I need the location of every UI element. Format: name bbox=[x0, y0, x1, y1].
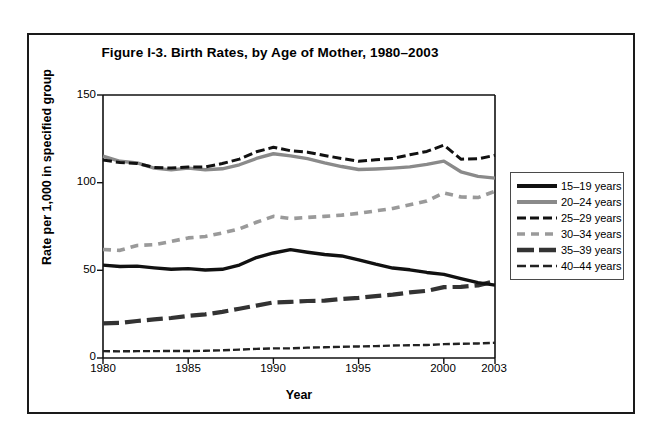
legend-label-25-29: 25–29 years bbox=[561, 212, 622, 224]
legend-item-40-44[interactable]: 40–44 years bbox=[516, 258, 618, 274]
y-tick-marks bbox=[97, 95, 103, 358]
legend-swatch-20-24 bbox=[516, 195, 558, 209]
legend-item-20-24[interactable]: 20–24 years bbox=[516, 194, 618, 210]
legend-label-30-34: 30–34 years bbox=[561, 228, 622, 240]
figure-root: Figure I-3. Birth Rates, by Age of Mothe… bbox=[0, 0, 662, 440]
legend-label-40-44: 40–44 years bbox=[561, 260, 622, 272]
legend-item-15-19[interactable]: 15–19 years bbox=[516, 178, 618, 194]
legend-swatch-15-19 bbox=[516, 179, 558, 193]
series-line-30-34------ bbox=[103, 191, 495, 250]
legend-item-35-39[interactable]: 35–39 years bbox=[516, 242, 618, 258]
x-tick-marks bbox=[103, 358, 495, 364]
legend-label-15-19: 15–19 years bbox=[561, 180, 622, 192]
legend-swatch-40-44 bbox=[516, 259, 558, 273]
data-series-layer bbox=[103, 145, 495, 351]
legend-item-25-29[interactable]: 25–29 years bbox=[516, 210, 618, 226]
legend-swatch-25-29 bbox=[516, 211, 558, 225]
legend-swatch-30-34 bbox=[516, 227, 558, 241]
legend-item-30-34[interactable]: 30–34 years bbox=[516, 226, 618, 242]
series-line-20-24------ bbox=[103, 154, 495, 178]
legend-swatch-35-39 bbox=[516, 243, 558, 257]
chart-legend: 15–19 years 20–24 years 25–29 years 30–3… bbox=[510, 172, 624, 280]
legend-label-20-24: 20–24 years bbox=[561, 196, 622, 208]
series-line-15-19------ bbox=[103, 250, 495, 285]
series-line-35-39------ bbox=[103, 281, 495, 323]
legend-label-35-39: 35–39 years bbox=[561, 244, 622, 256]
series-line-40-44------ bbox=[103, 343, 495, 352]
